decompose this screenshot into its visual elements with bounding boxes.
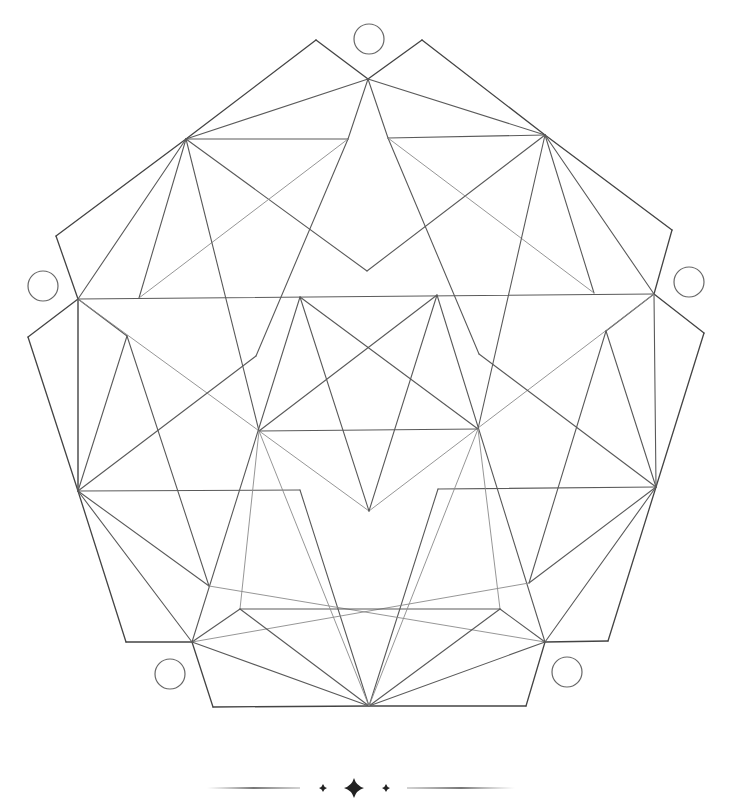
pattern-line bbox=[526, 642, 545, 706]
pattern-line bbox=[259, 295, 437, 431]
pattern-line bbox=[78, 336, 127, 491]
pattern-line bbox=[78, 299, 369, 511]
pattern-line bbox=[369, 295, 437, 511]
pattern-line bbox=[656, 333, 704, 487]
pattern-line bbox=[316, 40, 368, 79]
pattern-line bbox=[545, 135, 594, 293]
pattern-lines bbox=[28, 40, 704, 707]
large-star-icon bbox=[344, 778, 364, 798]
pattern-line bbox=[529, 487, 656, 583]
pattern-line bbox=[78, 491, 192, 642]
pattern-line bbox=[186, 40, 316, 139]
pattern-line bbox=[654, 294, 704, 333]
pattern-line bbox=[368, 79, 388, 138]
pattern-line bbox=[369, 429, 478, 706]
pattern-line bbox=[186, 79, 368, 139]
pattern-line bbox=[545, 487, 656, 642]
pattern-line bbox=[654, 230, 672, 294]
top-circle-icon bbox=[354, 24, 384, 54]
pattern-line bbox=[186, 139, 259, 431]
pattern-line bbox=[654, 294, 656, 487]
divider-line-left bbox=[207, 787, 300, 789]
pattern-line bbox=[28, 337, 78, 491]
left-circle-icon bbox=[28, 271, 58, 301]
small-star-left-icon bbox=[319, 784, 327, 792]
pattern-line bbox=[369, 642, 545, 706]
pattern-line bbox=[368, 79, 545, 135]
pattern-line bbox=[606, 331, 656, 487]
pattern-line bbox=[78, 294, 654, 299]
pattern-line bbox=[369, 489, 438, 706]
pattern-line bbox=[545, 641, 608, 642]
pattern-line bbox=[213, 706, 369, 707]
pattern-line bbox=[78, 490, 300, 491]
pattern-line bbox=[28, 299, 78, 337]
pattern-line bbox=[209, 586, 545, 642]
pattern-line bbox=[56, 139, 186, 236]
pattern-line bbox=[127, 336, 209, 586]
pattern-line bbox=[529, 331, 606, 583]
pattern-line bbox=[348, 79, 368, 139]
pattern-line bbox=[300, 490, 369, 706]
pattern-line bbox=[300, 297, 369, 511]
pattern-line bbox=[500, 609, 545, 642]
pattern-line bbox=[388, 135, 545, 138]
pattern-line bbox=[545, 135, 672, 230]
pattern-line bbox=[479, 354, 656, 487]
bottom-right-circle-icon bbox=[552, 657, 582, 687]
decorative-circles bbox=[28, 24, 704, 689]
pattern-line bbox=[608, 487, 656, 641]
pattern-line bbox=[192, 609, 240, 642]
bottom-left-circle-icon bbox=[155, 659, 185, 689]
pattern-line bbox=[369, 294, 654, 511]
pattern-line bbox=[192, 642, 213, 707]
pattern-line bbox=[422, 40, 545, 135]
pattern-line bbox=[438, 487, 656, 489]
pattern-line bbox=[78, 356, 256, 491]
pattern-line bbox=[192, 297, 300, 642]
right-circle-icon bbox=[674, 267, 704, 297]
small-star-right-icon bbox=[382, 784, 390, 792]
pattern-line bbox=[300, 297, 478, 429]
divider-line-right bbox=[407, 787, 515, 789]
pattern-line bbox=[78, 491, 126, 642]
pattern-line bbox=[259, 429, 478, 431]
geometric-pentagon-figure bbox=[0, 0, 732, 810]
pattern-line bbox=[56, 236, 78, 299]
pattern-line bbox=[139, 139, 186, 298]
pattern-line bbox=[78, 491, 209, 586]
pattern-line bbox=[545, 135, 654, 294]
pattern-line bbox=[368, 40, 422, 79]
pattern-line bbox=[192, 642, 369, 706]
ornamental-divider bbox=[207, 778, 515, 798]
pattern-line bbox=[478, 429, 500, 609]
